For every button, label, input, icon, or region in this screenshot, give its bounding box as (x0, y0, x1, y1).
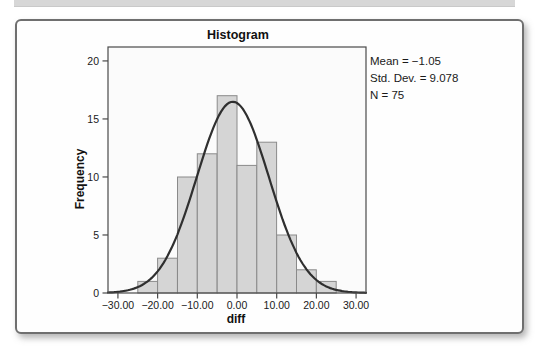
page-top-strip (14, 0, 515, 7)
stats-box: Mean = −1.05 Std. Dev. = 9.078 N = 75 (370, 53, 458, 104)
stat-mean: Mean = −1.05 (370, 53, 458, 70)
stat-n: N = 75 (370, 87, 458, 104)
stat-std-dev: Std. Dev. = 9.078 (370, 70, 458, 87)
